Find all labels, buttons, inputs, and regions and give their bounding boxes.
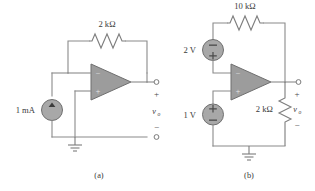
circuit-b-noninverting-input-wire bbox=[213, 91, 231, 104]
circuit-b-source-2v-label: 2 V bbox=[184, 45, 197, 55]
circuit-a-ground-icon bbox=[68, 137, 82, 151]
circuit-a-opamp-inverting-sign: − bbox=[96, 69, 101, 78]
circuit-b-opamp-noninverting-sign: + bbox=[236, 87, 241, 96]
circuit-a-opamp-noninverting-sign: + bbox=[96, 87, 101, 96]
circuit-b-feedback-resistor-symbol bbox=[227, 16, 264, 30]
circuit-a-output-terminal-negative[interactable] bbox=[154, 135, 159, 140]
circuit-b-output-terminal[interactable] bbox=[296, 80, 301, 85]
circuit-b-inverting-input-wire bbox=[213, 61, 231, 74]
circuit-a-group: 2 kΩ 1 mA + v o − − + (a) bbox=[16, 19, 161, 180]
circuit-b-source-2v-symbol bbox=[203, 40, 224, 61]
circuit-a-caption: (a) bbox=[94, 171, 104, 180]
circuit-b-load-resistor-label: 2 kΩ bbox=[256, 104, 273, 114]
figure-root: 2 kΩ 1 mA + v o − − + (a) bbox=[0, 0, 315, 191]
circuit-b-feedback-left-wire bbox=[213, 23, 227, 40]
circuit-b-output-voltage-subscript: o bbox=[299, 109, 302, 115]
circuit-a-output-voltage-subscript: o bbox=[158, 111, 161, 117]
circuit-b-opamp-inverting-sign: − bbox=[236, 69, 241, 78]
circuit-b-load-resistor-symbol bbox=[279, 82, 291, 146]
circuit-b-group: 10 kΩ 2 V 1 V 2 kΩ + v o − − + (b) bbox=[184, 1, 302, 180]
circuit-b-output-minus-sign: − bbox=[294, 120, 299, 130]
circuit-a-current-source-label: 1 mA bbox=[16, 105, 36, 115]
circuit-b-source-1v-label: 1 V bbox=[184, 110, 197, 120]
circuit-a-feedback-resistor-label: 2 kΩ bbox=[98, 19, 115, 29]
circuit-b-source-1v-symbol bbox=[203, 104, 224, 125]
circuit-a-feedback-left-wire bbox=[68, 41, 89, 73]
circuit-a-output-terminal-positive[interactable] bbox=[154, 80, 159, 85]
circuit-a-feedback-right-wire bbox=[126, 41, 147, 73]
circuit-a-output-voltage-label: v bbox=[152, 107, 156, 116]
circuit-b-output-voltage-label: v bbox=[293, 105, 297, 114]
circuit-diagram-canvas: 2 kΩ 1 mA + v o − − + (a) bbox=[0, 0, 315, 191]
circuit-a-output-plus-sign: + bbox=[154, 89, 159, 99]
circuit-b-caption: (b) bbox=[244, 171, 254, 180]
circuit-b-ground-icon bbox=[242, 146, 256, 160]
circuit-a-feedback-resistor-symbol bbox=[89, 34, 126, 48]
circuit-a-output-minus-sign: − bbox=[154, 122, 159, 132]
circuit-a-current-source-symbol bbox=[42, 100, 63, 121]
circuit-b-feedback-right-wire bbox=[264, 23, 285, 82]
circuit-b-output-plus-sign: + bbox=[294, 89, 299, 99]
circuit-b-feedback-resistor-label: 10 kΩ bbox=[234, 1, 255, 11]
